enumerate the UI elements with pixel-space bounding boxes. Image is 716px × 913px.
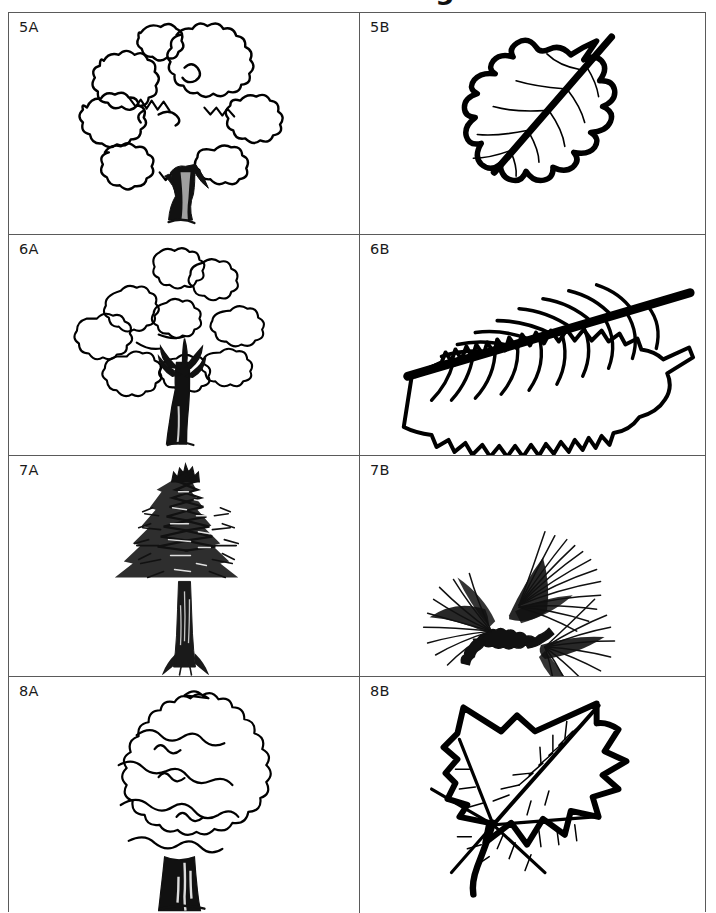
grid-cell-6a[interactable]: 6A bbox=[9, 235, 360, 456]
elm-leaf-serrated-icon bbox=[360, 235, 705, 455]
maple-leaf-pointed-lobes-icon bbox=[360, 677, 705, 913]
grid-cell-8b[interactable]: 8B bbox=[360, 677, 705, 913]
broadleaf-tree-round-crown-icon bbox=[9, 677, 359, 913]
cell-label: 6B bbox=[370, 242, 390, 257]
grid-cell-5a[interactable]: 5A bbox=[9, 13, 360, 235]
grid-cell-6b[interactable]: 6B bbox=[360, 235, 705, 456]
conifer-pine-tree-icon bbox=[9, 456, 359, 676]
page-title: Tree-Leaf Matching Game bbox=[0, 0, 716, 5]
broadleaf-tree-scalloped-crown-icon bbox=[9, 235, 359, 455]
cell-label: 5A bbox=[19, 20, 39, 35]
broadleaf-tree-bushy-crown-icon bbox=[9, 13, 359, 234]
cell-label: 7A bbox=[19, 463, 39, 478]
grid-cell-7b[interactable]: 7B bbox=[360, 456, 705, 677]
cell-label: 8B bbox=[370, 684, 390, 699]
oak-leaf-icon bbox=[360, 13, 705, 234]
pine-needle-cluster-icon bbox=[360, 456, 705, 676]
grid-cell-7a[interactable]: 7A bbox=[9, 456, 360, 677]
grid-cell-5b[interactable]: 5B bbox=[360, 13, 705, 235]
matching-grid: 5A bbox=[8, 12, 706, 912]
cell-label: 7B bbox=[370, 463, 390, 478]
cell-label: 6A bbox=[19, 242, 39, 257]
cell-label: 8A bbox=[19, 684, 39, 699]
grid-cell-8a[interactable]: 8A bbox=[9, 677, 360, 913]
cell-label: 5B bbox=[370, 20, 390, 35]
